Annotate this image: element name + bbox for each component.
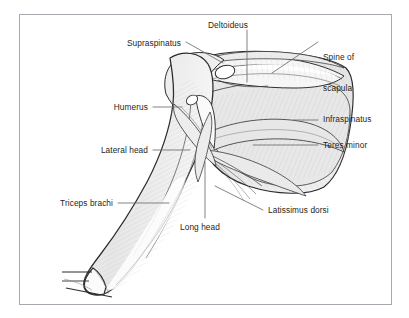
label-infraspinatus: Infraspinatus	[323, 114, 372, 124]
label-long-head: Long head	[169, 222, 231, 232]
label-spine-of-scapula-line2: scapula	[323, 83, 354, 93]
label-triceps-brachi: Triceps brachi	[60, 198, 113, 208]
label-lateral-head: Lateral head	[101, 145, 148, 155]
leader-latissimus-dorsi	[215, 186, 263, 210]
upper-arm	[70, 50, 230, 300]
label-spine-of-scapula: Spine of scapula	[323, 32, 354, 114]
anatomy-figure: Supraspinatus Deltoideus Spine of scapul…	[0, 0, 409, 318]
label-humerus: Humerus	[114, 102, 148, 112]
label-teres-minor: Teres minor	[323, 140, 367, 150]
label-supraspinatus: Supraspinatus	[127, 38, 181, 48]
label-latissimus-dorsi: Latissimus dorsi	[268, 205, 329, 215]
label-deltoideus: Deltoideus	[178, 20, 278, 30]
label-spine-of-scapula-line1: Spine of	[323, 52, 354, 62]
